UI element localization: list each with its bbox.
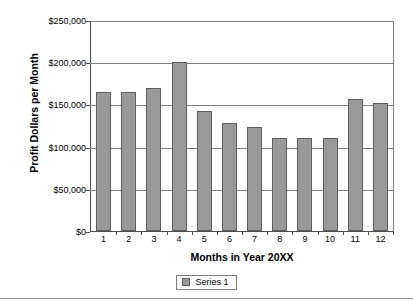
x-axis-tick-mark <box>393 232 394 235</box>
x-axis-tick-label: 10 <box>325 234 335 244</box>
bar <box>197 111 212 231</box>
legend-entry-label: Series 1 <box>195 277 228 287</box>
x-axis-tick-labels: 123456789101112 <box>91 234 393 248</box>
x-axis-tick-mark <box>217 232 218 235</box>
figure-bottom-rule <box>0 298 413 299</box>
bar <box>323 138 338 231</box>
y-axis-tick-mark <box>86 148 90 149</box>
x-axis-tick-label: 12 <box>375 234 385 244</box>
x-axis-tick-mark <box>368 232 369 235</box>
y-axis-tick-label: $0 <box>4 227 86 237</box>
legend: Series 1 <box>0 275 413 290</box>
x-axis-tick-label: 3 <box>151 234 156 244</box>
bar <box>373 103 388 231</box>
bar <box>297 138 312 231</box>
x-axis-tick-label: 6 <box>227 234 232 244</box>
x-axis-tick-label: 11 <box>351 234 360 244</box>
bar <box>247 127 262 231</box>
x-axis-tick-mark <box>292 232 293 235</box>
x-axis-tick-mark <box>343 232 344 235</box>
y-axis-tick-mark <box>86 105 90 106</box>
y-axis-tick-mark <box>86 63 90 64</box>
plot-area <box>90 21 394 232</box>
x-axis-tick-label: 9 <box>302 234 307 244</box>
bar <box>222 123 237 231</box>
x-axis-tick-label: 5 <box>202 234 207 244</box>
x-axis-tick-mark <box>116 232 117 235</box>
y-axis-tick-label: $50,000 <box>4 185 86 195</box>
bar <box>146 88 161 231</box>
y-axis-tick-mark <box>86 21 90 22</box>
bar <box>172 62 187 231</box>
x-axis-title: Months in Year 20XX <box>90 251 394 263</box>
legend-box: Series 1 <box>176 275 236 290</box>
bar <box>121 92 136 231</box>
x-axis-tick-label: 2 <box>126 234 131 244</box>
square-swatch-icon <box>182 278 190 286</box>
x-axis-tick-mark <box>318 232 319 235</box>
y-axis-tick-mark <box>86 232 90 233</box>
y-axis-tick-labels: $0$50,000$100,000$150,000$200,000$250,00… <box>0 21 86 232</box>
x-axis-tick-label: 1 <box>101 234 106 244</box>
y-axis-tick-label: $200,000 <box>4 58 86 68</box>
x-axis-tick-mark <box>167 232 168 235</box>
y-axis-tick-mark <box>86 190 90 191</box>
bar <box>272 138 287 231</box>
bar <box>96 92 111 231</box>
y-axis-tick-label: $150,000 <box>4 100 86 110</box>
y-axis-tick-label: $100,000 <box>4 143 86 153</box>
bar-chart-figure: Profit Dollars per Month $0$50,000$100,0… <box>0 0 413 306</box>
x-axis-tick-mark <box>242 232 243 235</box>
x-axis-tick-mark <box>141 232 142 235</box>
x-axis-tick-mark <box>267 232 268 235</box>
bars-layer <box>91 21 393 231</box>
bar <box>348 99 363 231</box>
x-axis-tick-label: 8 <box>277 234 282 244</box>
x-axis-tick-mark <box>192 232 193 235</box>
y-axis-tick-label: $250,000 <box>4 16 86 26</box>
x-axis-tick-label: 4 <box>177 234 182 244</box>
x-axis-tick-label: 7 <box>252 234 257 244</box>
